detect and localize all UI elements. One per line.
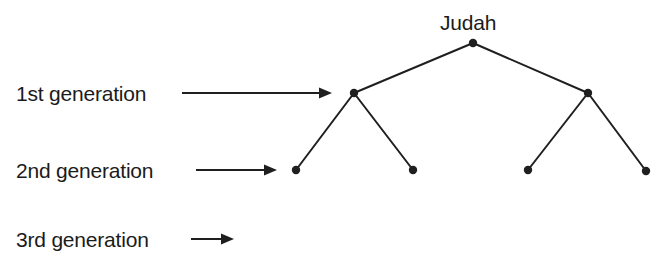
edge-gen1-left-to-gen2-a [296, 93, 354, 170]
node-gen2-a [292, 166, 300, 174]
node-gen2-d [642, 167, 650, 175]
tree-edges [296, 43, 646, 171]
generation-label-3rd: 3rd generation [16, 229, 149, 250]
generation-label-2nd: 2nd generation [16, 160, 153, 181]
arrow-gen-3 [191, 234, 234, 245]
edge-root-to-gen1-left [354, 43, 473, 93]
node-root [469, 39, 477, 47]
node-gen1-right [584, 89, 592, 97]
node-gen1-left [350, 89, 358, 97]
arrow-gen-1 [182, 88, 332, 99]
diagram-canvas: Judah 1st generation 2nd generation 3rd … [0, 0, 662, 259]
node-gen2-b [409, 166, 417, 174]
generation-arrows [182, 88, 332, 245]
node-gen2-c [524, 166, 532, 174]
edge-root-to-gen1-right [473, 43, 588, 93]
edge-gen1-left-to-gen2-b [354, 93, 413, 170]
generation-label-1st: 1st generation [16, 83, 146, 104]
root-node-label: Judah [440, 12, 496, 33]
tree-nodes [292, 39, 650, 175]
edge-gen1-right-to-gen2-c [528, 93, 588, 170]
tree-graphic [0, 0, 662, 259]
edge-gen1-right-to-gen2-d [588, 93, 646, 171]
arrow-gen-2 [196, 165, 277, 176]
